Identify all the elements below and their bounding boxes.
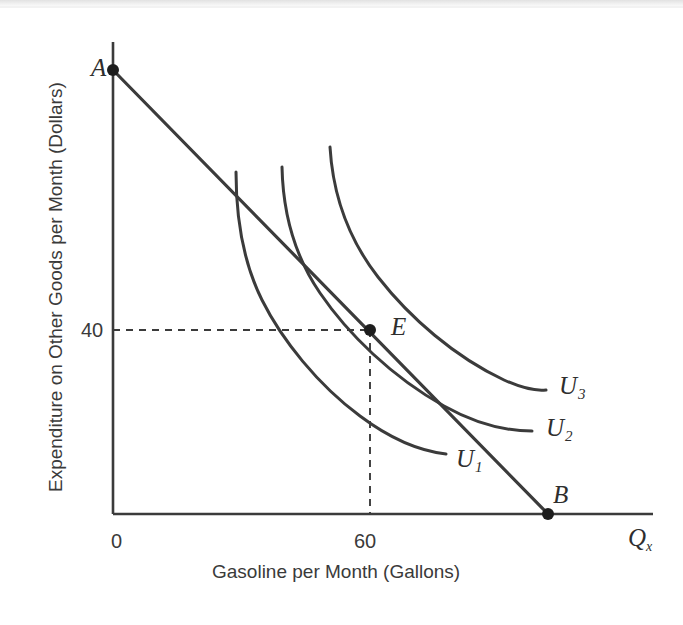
- point-label-a: A: [91, 55, 106, 80]
- point-e-dot: [364, 324, 376, 336]
- curve-label-u2: U2: [546, 415, 572, 440]
- budget-line-ab: [113, 70, 548, 514]
- curve-label-u2-symbol: U: [546, 414, 564, 441]
- chart-canvas: [0, 0, 683, 625]
- x-tick-label-60: 60: [354, 531, 376, 551]
- curve-label-u1: U1: [456, 446, 482, 471]
- x-axis-title: Gasoline per Month (Gallons): [212, 562, 460, 581]
- x-axis-variable-symbol: Q: [628, 524, 646, 551]
- indifference-curve-u3: [330, 147, 546, 390]
- curve-label-u1-symbol: U: [456, 445, 474, 472]
- point-b-dot: [542, 508, 554, 520]
- point-label-b: B: [553, 482, 568, 507]
- point-label-e: E: [391, 314, 406, 339]
- curve-label-u2-subscript: 2: [565, 428, 573, 444]
- point-a-dot: [107, 64, 119, 76]
- indifference-curve-u2: [282, 167, 532, 431]
- indifference-curve-u1: [236, 172, 446, 454]
- x-tick-label-0: 0: [111, 531, 122, 551]
- x-axis-variable-subscript: x: [646, 539, 652, 554]
- curve-label-u1-subscript: 1: [475, 459, 483, 475]
- curve-label-u3-subscript: 3: [578, 386, 586, 402]
- y-tick-label-40: 40: [81, 320, 103, 340]
- x-axis-variable-label: Qx: [628, 525, 652, 550]
- curve-label-u3: U3: [559, 373, 585, 398]
- figure-root: Expenditure on Other Goods per Month (Do…: [0, 0, 683, 625]
- y-axis-title: Expenditure on Other Goods per Month (Do…: [46, 82, 65, 492]
- curve-label-u3-symbol: U: [559, 372, 577, 399]
